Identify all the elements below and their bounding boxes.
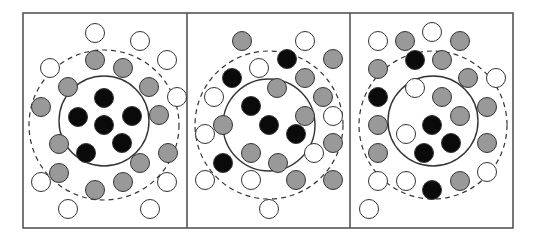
gray-particle [314, 88, 333, 107]
black-particle [442, 134, 461, 153]
panel-1 [29, 24, 187, 219]
white-particle [397, 172, 416, 191]
white-particle [242, 171, 261, 190]
gray-particle [433, 88, 452, 107]
gray-particle [433, 51, 452, 70]
gray-particle [242, 144, 261, 163]
white-particle [369, 172, 388, 191]
white-particle [32, 173, 51, 192]
white-particle [86, 24, 105, 43]
white-particle [487, 69, 506, 88]
black-particle [69, 108, 88, 127]
white-particle [305, 144, 324, 163]
black-particle [242, 97, 261, 116]
gray-particle [140, 78, 159, 97]
gray-particle [131, 154, 150, 173]
gray-particle [50, 164, 69, 183]
white-particle [324, 107, 343, 126]
black-particle [95, 116, 114, 135]
gray-particle [369, 144, 388, 163]
gray-particle [114, 173, 133, 192]
white-particle [296, 32, 315, 51]
gray-particle [459, 69, 478, 88]
black-particle [113, 134, 132, 153]
white-particle [369, 32, 388, 51]
black-particle [123, 107, 142, 126]
white-particle [478, 163, 497, 182]
gray-particle [478, 134, 497, 153]
diagram-canvas [0, 0, 535, 240]
black-particle [369, 88, 388, 107]
black-particle [415, 144, 434, 163]
white-particle [168, 88, 187, 107]
black-particle [223, 69, 242, 88]
gray-particle [369, 60, 388, 79]
gray-particle [268, 79, 287, 98]
gray-particle [451, 172, 470, 191]
white-particle [406, 79, 425, 98]
black-particle [95, 89, 114, 108]
gray-particle [451, 32, 470, 51]
white-particle [423, 23, 442, 42]
panel-3 [359, 23, 507, 219]
panels [29, 23, 507, 219]
white-particle [360, 200, 379, 219]
white-particle [141, 200, 160, 219]
particle-diagram [0, 0, 535, 240]
gray-particle [114, 59, 133, 78]
gray-particle [324, 134, 343, 153]
black-particle [423, 116, 442, 135]
gray-particle [59, 78, 78, 97]
black-particle [406, 51, 425, 70]
white-particle [41, 59, 60, 78]
black-particle [423, 181, 442, 200]
gray-particle [324, 50, 343, 69]
black-particle [260, 116, 279, 135]
gray-particle [233, 32, 252, 51]
white-particle [397, 125, 416, 144]
white-particle [196, 171, 215, 190]
gray-particle [369, 116, 388, 135]
gray-particle [159, 144, 178, 163]
black-particle [287, 125, 306, 144]
gray-particle [396, 32, 415, 51]
white-particle [59, 200, 78, 219]
black-particle [214, 154, 233, 173]
gray-particle [86, 51, 105, 70]
white-particle [205, 88, 224, 107]
gray-particle [50, 135, 69, 154]
gray-particle [296, 107, 315, 126]
gray-particle [296, 69, 315, 88]
gray-particle [150, 106, 169, 125]
white-particle [250, 59, 269, 78]
gray-particle [451, 107, 470, 126]
black-particle [77, 144, 96, 163]
white-particle [158, 173, 177, 192]
gray-particle [269, 154, 288, 173]
panel-2 [195, 32, 343, 219]
white-particle [196, 125, 215, 144]
white-particle [260, 200, 279, 219]
white-particle [158, 51, 177, 70]
gray-particle [214, 116, 233, 135]
gray-particle [324, 171, 343, 190]
gray-particle [287, 171, 306, 190]
gray-particle [32, 98, 51, 117]
gray-particle [478, 98, 497, 117]
white-particle [131, 32, 150, 51]
black-particle [278, 50, 297, 69]
gray-particle [86, 181, 105, 200]
